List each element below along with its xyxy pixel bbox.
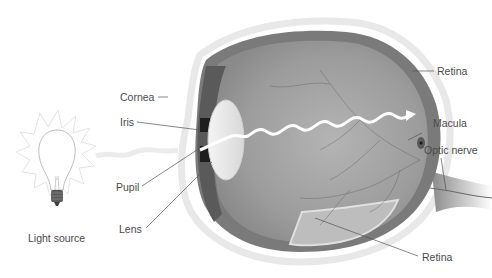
label-retina-top: Retina	[437, 65, 467, 77]
label-optic-nerve: Optic nerve	[424, 144, 478, 156]
label-pupil: Pupil	[116, 181, 139, 193]
light-beam	[96, 150, 178, 156]
label-retina-bottom: Retina	[422, 251, 452, 263]
label-iris: Iris	[120, 116, 134, 128]
eye-anatomy-diagram: Cornea Iris Pupil Lens Retina Macula Opt…	[0, 0, 492, 278]
label-lens: Lens	[119, 223, 142, 235]
light-bulb-icon	[39, 130, 75, 206]
optic-nerve	[432, 172, 492, 212]
label-macula: Macula	[433, 117, 467, 129]
label-light-source: Light source	[28, 232, 85, 244]
lens	[208, 100, 244, 180]
label-cornea: Cornea	[120, 91, 154, 103]
